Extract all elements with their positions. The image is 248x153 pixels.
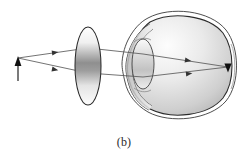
object-arrow-group bbox=[15, 56, 22, 81]
crystalline-lens bbox=[132, 39, 154, 89]
corrective-lens-group bbox=[75, 27, 101, 105]
ray-arrowhead-lower-left bbox=[51, 66, 58, 72]
eyeball-group bbox=[122, 11, 237, 119]
converging-lens bbox=[75, 27, 101, 105]
optics-figure: (b) bbox=[0, 0, 248, 153]
eye-optics-diagram bbox=[0, 0, 248, 153]
